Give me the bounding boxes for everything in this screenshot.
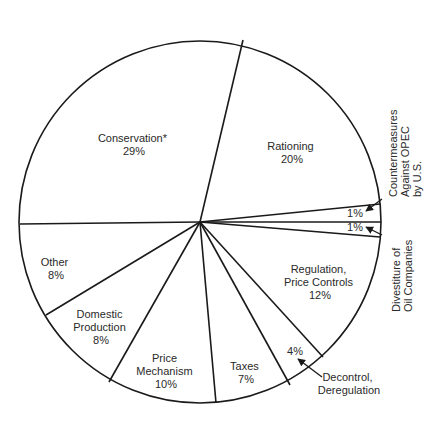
annotation-decontrol: Decontrol, Deregulation — [318, 371, 380, 396]
annotation-divestiture: Divestiture of Oil Companies — [390, 239, 414, 312]
annotation-countermeasures: Countermeasures Against OPEC by U.S. — [387, 107, 423, 198]
slice-pct-divestiture: 1% — [347, 221, 363, 233]
slice-pct-countermeasures: 1% — [347, 207, 363, 219]
slice-pct-decontrol: 4% — [287, 345, 303, 357]
pie-chart: Conservation* 29% Rationing 20% 1% Count… — [0, 0, 436, 434]
